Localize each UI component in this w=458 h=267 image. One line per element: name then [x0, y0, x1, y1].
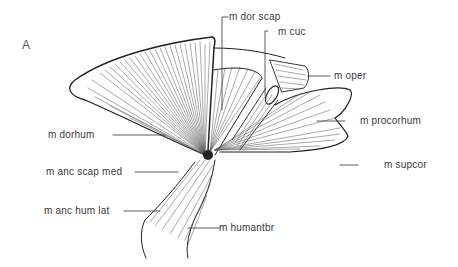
label-m-procorhum: m procorhum: [360, 115, 421, 127]
anatomical-figure: A m dor scap m cuc m oper m procorhum m …: [0, 0, 458, 267]
label-m-humantbr: m humantbr: [219, 222, 274, 234]
label-m-oper: m oper: [334, 70, 366, 82]
label-m-dor-scap: m dor scap: [229, 11, 280, 23]
panel-label: A: [22, 39, 30, 51]
label-m-anc-scap-med: m anc scap med: [46, 166, 122, 178]
label-m-dorhum: m dorhum: [48, 129, 95, 141]
label-m-supcor: m supcor: [384, 159, 427, 171]
label-m-anc-hum-lat: m anc hum lat: [44, 205, 109, 217]
label-m-cuc: m cuc: [278, 26, 306, 38]
